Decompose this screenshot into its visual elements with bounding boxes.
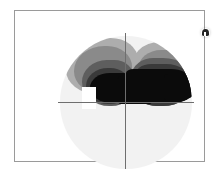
- region-left-mid-highlight: [82, 87, 96, 109]
- vertical-meridian-axis: [125, 33, 126, 169]
- corner-mark-label: [0, 0, 1, 1]
- document-title: Visual Field Grayscale Plot: [0, 0, 1, 1]
- region-scotoma-core-tail: [164, 74, 192, 100]
- horizontal-meridian-axis: [58, 102, 194, 103]
- page-canvas: Visual Field Grayscale Plot: [0, 0, 217, 176]
- report-frame: [14, 10, 205, 162]
- plot-caption: [0, 0, 1, 1]
- corner-mark-notch: [204, 32, 206, 36]
- corner-mark-icon: [201, 28, 210, 37]
- chart-title: [0, 0, 1, 1]
